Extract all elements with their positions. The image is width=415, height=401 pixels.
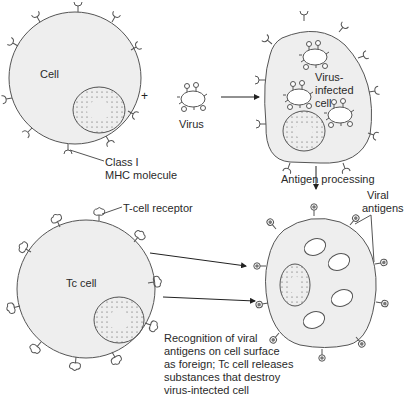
label-recognition-line1: Recognition of viral — [164, 332, 258, 345]
label-virus: Virus — [179, 118, 204, 131]
label-recognition-line5: virus-intected cell — [164, 384, 249, 397]
label-viral-line1: Viral — [367, 189, 389, 202]
label-recognition-line2: antigens on cell surface — [164, 345, 280, 358]
label-t-cell-receptor: T-cell receptor — [123, 202, 193, 215]
label-infected-line2: infected — [315, 84, 354, 97]
plus-sign: + — [141, 89, 148, 103]
label-infected-line3: cell — [315, 97, 332, 110]
label-cell: Cell — [40, 68, 59, 81]
normal-cell — [1, 2, 141, 161]
label-infected-line1: Virus- — [315, 71, 344, 84]
arrow-recognition-1 — [150, 253, 246, 266]
label-class1-line2: MHC molecule — [105, 169, 177, 182]
arrow-recognition-2 — [163, 297, 255, 301]
antigen-presenting-infected-cell — [254, 204, 389, 361]
label-antigen-processing: Antigen processing — [281, 173, 375, 186]
label-class1-line1: Class I — [105, 156, 139, 169]
class1-leader-line — [70, 150, 104, 161]
virus-particle — [177, 83, 207, 112]
tc-nucleus — [94, 297, 144, 343]
label-tc-cell: Tc cell — [66, 277, 97, 290]
diagram-canvas: + Cell Virus Class I MHC molecule Virus-… — [0, 0, 415, 401]
label-viral-line2: antigens — [362, 202, 404, 215]
nucleus — [73, 87, 125, 133]
label-recognition-line4: substances that destroy — [164, 371, 280, 384]
label-recognition-line3: as foreign; Tc cell releases — [164, 358, 293, 371]
